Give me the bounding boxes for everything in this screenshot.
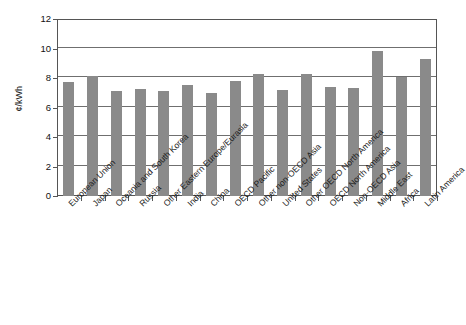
x-tick-label: Latin America xyxy=(423,165,466,208)
x-tick-label: Japan xyxy=(91,185,114,208)
x-tick-label: Africa xyxy=(399,186,421,208)
x-tick-label: China xyxy=(209,186,231,208)
x-tick-label: Russia xyxy=(138,183,163,208)
x-tick-label: India xyxy=(186,189,206,209)
